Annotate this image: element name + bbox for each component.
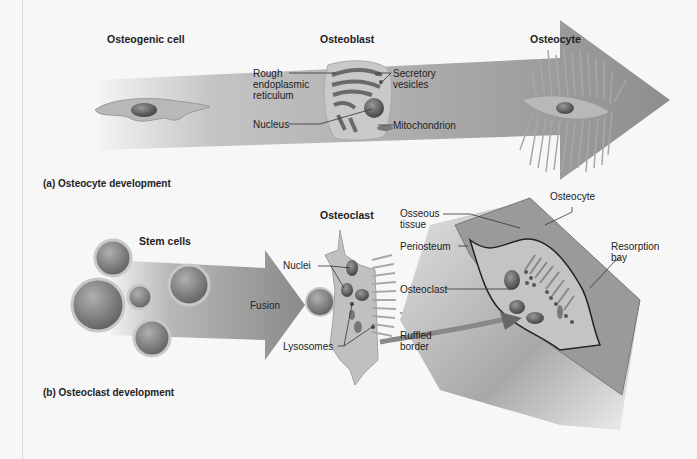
label-fusion: Fusion [250,300,280,311]
label-osteogenic-cell: Osteogenic cell [107,34,185,45]
label-osteoblast: Osteoblast [320,34,374,45]
label-resorption-bay: Resorption bay [611,241,659,263]
bone-section-illustration [380,198,640,430]
label-rough-er: Rough endoplasmic reticulum [253,68,309,101]
label-stem-cells: Stem cells [139,236,191,247]
osteoclast-illustration [325,230,396,385]
label-ruffled-border: Ruffled border [400,330,432,352]
label-osteocyte-stage: Osteocyte [530,34,581,45]
label-nucleus: Nucleus [253,119,289,130]
label-secretory-vesicles: Secretory vesicles [393,68,436,90]
label-mitochondrion: Mitochondrion [393,120,456,131]
label-osseous-tissue: Osseous tissue [400,208,439,230]
caption-panel-b: (b) Osteoclast development [43,387,174,398]
label-osteoclast-bone: Osteoclast [400,284,447,295]
label-osteoclast-title: Osteoclast [320,210,374,221]
label-nuclei: Nuclei [283,260,311,271]
label-periosteum: Periosteum [400,241,451,252]
caption-panel-a: (a) Osteocyte development [43,178,171,189]
label-osteocyte-bone: Osteocyte [550,191,595,202]
label-lysosomes: Lysosomes [283,341,333,352]
